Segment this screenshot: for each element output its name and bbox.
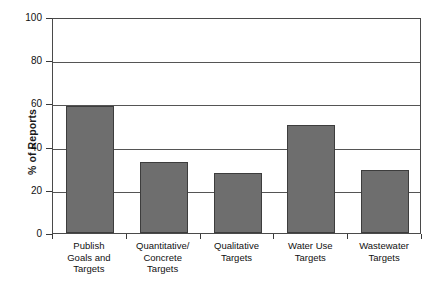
bar — [361, 170, 409, 233]
gridline — [53, 62, 420, 63]
x-axis-label-line: Targets — [273, 252, 347, 264]
y-axis-tick-label: 0 — [8, 229, 42, 239]
bar — [140, 162, 188, 233]
bar — [214, 173, 262, 233]
x-axis-label-line: Publish — [52, 240, 126, 252]
chart-figure: % of Reports 020406080100 PublishGoals a… — [0, 0, 430, 284]
x-axis-tick-mark — [421, 234, 422, 239]
y-axis-tick-label: 40 — [8, 143, 42, 153]
x-axis-category-label: Quantitative/ConcreteTargets — [126, 240, 200, 275]
x-axis-label-line: Concrete — [126, 252, 200, 264]
y-axis-tick-label: 80 — [8, 56, 42, 66]
x-axis-category-label: Water UseTargets — [273, 240, 347, 263]
x-axis-label-line: Targets — [200, 252, 274, 264]
x-axis-category-label: WastewaterTargets — [347, 240, 421, 263]
x-axis-tick-mark — [347, 234, 348, 239]
x-axis-label-line: Targets — [52, 263, 126, 275]
bar — [66, 106, 114, 233]
x-axis-label-line: Targets — [347, 252, 421, 264]
x-axis-tick-mark — [126, 234, 127, 239]
x-axis-category-label: QualitativeTargets — [200, 240, 274, 263]
y-axis-tick-label: 20 — [8, 186, 42, 196]
bar — [287, 125, 335, 233]
y-axis-tick-label: 60 — [8, 99, 42, 109]
x-axis-label-line: Targets — [126, 263, 200, 275]
x-axis-label-line: Water Use — [273, 240, 347, 252]
y-axis-tick-label: 100 — [8, 13, 42, 23]
x-axis-label-line: Wastewater — [347, 240, 421, 252]
x-axis-label-line: Goals and — [52, 252, 126, 264]
x-axis-label-line: Quantitative/ — [126, 240, 200, 252]
x-axis-tick-mark — [273, 234, 274, 239]
x-axis-tick-mark — [52, 234, 53, 239]
plot-area — [52, 18, 421, 234]
x-axis-tick-mark — [200, 234, 201, 239]
x-axis-category-label: PublishGoals andTargets — [52, 240, 126, 275]
x-axis-label-line: Qualitative — [200, 240, 274, 252]
